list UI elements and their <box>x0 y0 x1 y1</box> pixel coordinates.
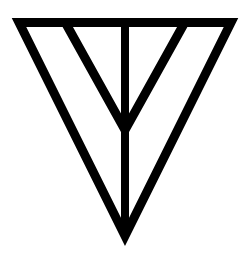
inverted-triangle-symbol <box>0 0 245 257</box>
